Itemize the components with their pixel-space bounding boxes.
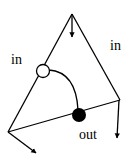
connecting-arc <box>49 70 78 110</box>
filled-node-out <box>72 108 86 122</box>
arrow-right-icon <box>117 100 119 138</box>
edge-top-right <box>72 14 120 100</box>
label-out: out <box>79 127 97 142</box>
arrow-left-icon <box>8 132 36 153</box>
triangle-diagram: in in out <box>0 0 133 165</box>
edge-bottom <box>8 100 120 132</box>
label-in-right: in <box>110 38 121 53</box>
label-in-left: in <box>11 52 22 67</box>
open-node-in <box>37 65 50 78</box>
